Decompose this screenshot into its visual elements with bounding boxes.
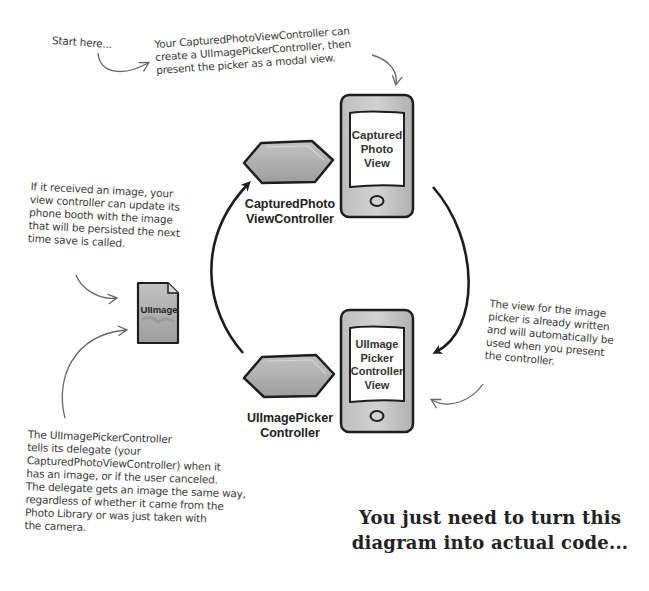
- create-picker-arrow: [372, 55, 396, 84]
- delegate-arrow: [62, 330, 126, 418]
- received-image-arrow: [76, 275, 116, 298]
- picker-view-arrow: [432, 384, 483, 404]
- captured-photo-controller-label: CapturedPhoto ViewController: [238, 197, 342, 227]
- delegate-note: The UIImagePickerController tells its de…: [24, 428, 247, 540]
- captured-photo-controller-hexagon-icon: [244, 141, 333, 183]
- captured-photo-view-label: Captured Photo View: [350, 128, 404, 170]
- image-picker-controller-hexagon-icon: [244, 355, 334, 397]
- image-picker-controller-label: UIImagePicker Controller: [238, 411, 342, 441]
- diagram-canvas: Start here... Your CapturedPhotoViewCont…: [0, 0, 649, 591]
- uiimage-label: UIImage: [138, 304, 180, 315]
- present-cycle-arrow: [433, 187, 469, 352]
- picker-view-note: The view for the image picker is already…: [484, 297, 616, 373]
- start-arrow: [98, 53, 148, 71]
- received-image-note: If it received an image, your view contr…: [28, 180, 183, 253]
- picker-controller-view-label: UIImage Picker Controller View: [348, 338, 406, 392]
- headline: You just need to turn this diagram into …: [350, 505, 630, 555]
